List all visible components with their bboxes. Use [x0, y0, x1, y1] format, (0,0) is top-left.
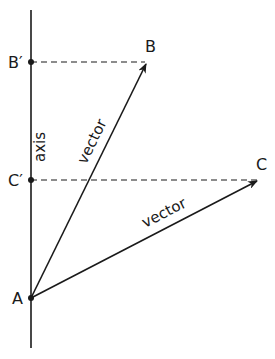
vector-projection-diagram: B′ C′ A B C axis vector vector [0, 0, 275, 359]
label-c-prime: C′ [8, 171, 23, 190]
point-a [28, 295, 34, 301]
label-axis: axis [31, 132, 49, 162]
point-c-prime [28, 177, 34, 183]
vector-ac [31, 181, 257, 298]
label-a: A [12, 289, 23, 308]
label-vector-ac: vector [139, 194, 190, 232]
label-vector-ab: vector [73, 115, 110, 166]
label-c: C [256, 155, 267, 174]
label-b: B [145, 37, 156, 56]
label-b-prime: B′ [8, 53, 23, 72]
vector-ab [31, 64, 146, 298]
point-b-prime [28, 59, 34, 65]
